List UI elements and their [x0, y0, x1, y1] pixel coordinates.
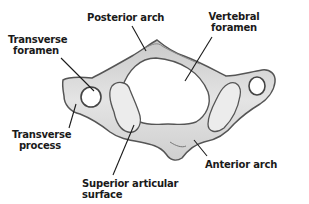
label-superior-articular-line1: Superior articular — [82, 178, 178, 189]
label-vertebral-foramen: Vertebral foramen — [204, 11, 264, 33]
label-transverse-process: Transverse process — [12, 129, 68, 151]
label-transverse-foramen-line1: Transverse — [8, 34, 64, 45]
right-transverse-foramen — [249, 77, 265, 95]
label-transverse-foramen: Transverse foramen — [8, 34, 64, 56]
label-transverse-process-line1: Transverse — [12, 129, 68, 140]
label-vertebral-foramen-line2: foramen — [204, 22, 264, 33]
label-posterior-arch: Posterior arch — [87, 12, 164, 23]
label-transverse-foramen-line2: foramen — [8, 45, 64, 56]
leader-posterior-arch — [132, 26, 146, 51]
left-transverse-foramen — [81, 87, 101, 107]
label-vertebral-foramen-line1: Vertebral — [204, 11, 264, 22]
label-superior-articular-line2: surface — [82, 189, 178, 200]
atlas-vertebra-diagram: Posterior arch Vertebral foramen Transve… — [0, 0, 309, 204]
label-anterior-arch: Anterior arch — [205, 159, 277, 170]
label-superior-articular-surface: Superior articular surface — [82, 178, 178, 200]
label-transverse-process-line2: process — [12, 140, 68, 151]
